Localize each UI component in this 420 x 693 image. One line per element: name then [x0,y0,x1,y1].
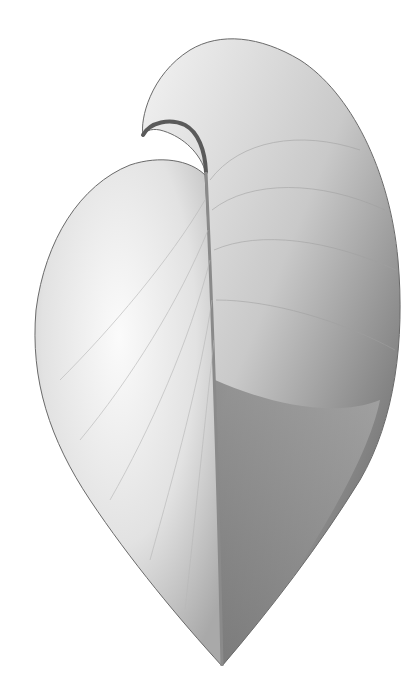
right-valve-shadow [215,380,380,666]
illustration-canvas [0,0,420,693]
left-valve [35,160,222,666]
shell-illustration [0,0,420,693]
